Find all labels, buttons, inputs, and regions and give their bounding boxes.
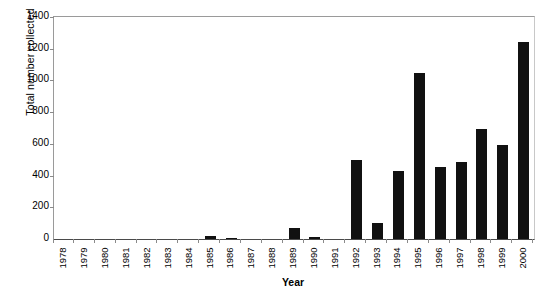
bar-slot (346, 17, 367, 239)
bar-slot (284, 17, 305, 239)
x-axis-tick-cell (116, 239, 137, 243)
y-axis-tick-label: 600 (5, 138, 49, 148)
y-axis-tick-mark (50, 80, 54, 81)
x-axis-tick-cell (74, 239, 95, 243)
bar-slot (388, 17, 409, 239)
x-axis-tick-cell (199, 239, 220, 243)
bar (393, 171, 404, 239)
x-axis-tick-cell (137, 239, 158, 243)
x-axis-label-cell: 1991 (324, 244, 345, 274)
x-axis-label-cell: 1996 (429, 244, 450, 274)
bar-slot (54, 17, 75, 239)
x-axis-tick-label: 1986 (226, 247, 236, 268)
y-axis-tick-label: 1000 (5, 74, 49, 84)
x-axis-tick-cell (512, 239, 533, 243)
y-axis-tick-label: 400 (5, 170, 49, 180)
x-axis-tick-label: 1983 (163, 247, 173, 268)
x-axis-label-cell: 1984 (178, 244, 199, 274)
y-axis-tick-label: 0 (5, 233, 49, 243)
bar-slot (138, 17, 159, 239)
y-axis-tick-labels: 0200400600800100012001400 (0, 0, 49, 296)
x-axis-tick-label: 1998 (476, 247, 486, 268)
bar-slot (242, 17, 263, 239)
y-axis-tick-mark (50, 49, 54, 50)
x-axis-tick-label: 1985 (205, 247, 215, 268)
x-axis-tick-cell (450, 239, 471, 243)
x-axis-label-cell: 1979 (74, 244, 95, 274)
bar (351, 160, 362, 239)
bar-slot (367, 17, 388, 239)
x-axis-tick-cell (429, 239, 450, 243)
bar-slot (96, 17, 117, 239)
bar (497, 145, 508, 239)
y-axis-tick-mark (50, 144, 54, 145)
x-axis-label-cell: 1997 (450, 244, 471, 274)
bar-slot (75, 17, 96, 239)
x-axis-tick-cell (471, 239, 492, 243)
x-axis-tick-label: 1978 (59, 247, 69, 268)
bar-slot (492, 17, 513, 239)
x-axis-tick-cell (304, 239, 325, 243)
bar-slot (325, 17, 346, 239)
x-axis-tick-cell (408, 239, 429, 243)
x-axis-tick-label: 1993 (372, 247, 382, 268)
x-axis-tick-label: 1990 (309, 247, 319, 268)
x-axis-label-cell: 2000 (512, 244, 533, 274)
x-axis-tick-cell (324, 239, 345, 243)
x-axis-label-cell: 1998 (471, 244, 492, 274)
bar (456, 162, 467, 239)
bar-slot (409, 17, 430, 239)
x-axis-label-cell: 1989 (283, 244, 304, 274)
x-axis-tick-cell (157, 239, 178, 243)
bar-slot (117, 17, 138, 239)
x-axis-tick-cell (283, 239, 304, 243)
y-axis-tick-label: 800 (5, 106, 49, 116)
x-axis-label-cell: 1983 (157, 244, 178, 274)
x-axis-label-cell: 1988 (262, 244, 283, 274)
x-axis-tick-cell (387, 239, 408, 243)
x-axis-label-cell: 1982 (137, 244, 158, 274)
bar-slot (263, 17, 284, 239)
x-axis-tick-label: 1997 (455, 247, 465, 268)
y-axis-tick-mark (50, 176, 54, 177)
bar (414, 73, 425, 239)
x-axis-tick-label: 1991 (330, 247, 340, 268)
x-axis-tick-cell (220, 239, 241, 243)
y-axis-tick-label: 1400 (5, 11, 49, 21)
x-axis-tick-cell (491, 239, 512, 243)
y-axis-tick-label: 200 (5, 201, 49, 211)
x-axis-tick-cell (53, 239, 74, 243)
bar-slot (451, 17, 472, 239)
x-axis-tick-cell (178, 239, 199, 243)
x-axis-tick-label: 1980 (100, 247, 110, 268)
x-axis-tick-label: 1981 (121, 247, 131, 268)
x-axis-tick-cell (95, 239, 116, 243)
bar-slot (305, 17, 326, 239)
bar-slot (221, 17, 242, 239)
x-axis-label-cell: 1995 (408, 244, 429, 274)
bar-slot (179, 17, 200, 239)
x-axis-tick-cell (366, 239, 387, 243)
bar-slot (472, 17, 493, 239)
bar-series (54, 17, 534, 239)
x-axis-label-cell: 1978 (53, 244, 74, 274)
x-axis-label-cell: 1980 (95, 244, 116, 274)
x-axis-label-cell: 1990 (304, 244, 325, 274)
bar-slot (430, 17, 451, 239)
x-axis-tick-label: 1979 (80, 247, 90, 268)
bar-slot (158, 17, 179, 239)
x-axis-title: Year (53, 276, 533, 288)
bar-slot (200, 17, 221, 239)
x-axis-tick-label: 1987 (247, 247, 257, 268)
x-axis-label-cell: 1999 (491, 244, 512, 274)
x-axis-tick-label: 1982 (142, 247, 152, 268)
y-axis-tick-mark (50, 17, 54, 18)
x-axis-tick-label: 1984 (184, 247, 194, 268)
y-axis-tick-mark (50, 112, 54, 113)
y-axis-tick-mark (50, 207, 54, 208)
x-axis-label-cell: 1994 (387, 244, 408, 274)
x-axis-tick-label: 1988 (267, 247, 277, 268)
x-axis-tick-label: 1989 (288, 247, 298, 268)
bar (289, 228, 300, 239)
x-axis-label-cell: 1993 (366, 244, 387, 274)
